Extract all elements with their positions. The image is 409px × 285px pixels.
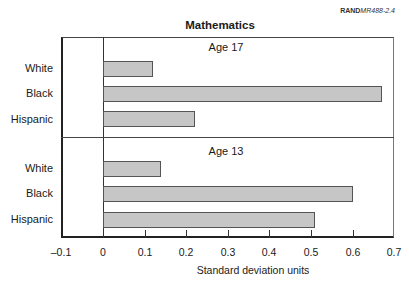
x-tick-label: 0.6 [338,246,368,258]
x-tick [311,230,312,238]
category-label: White [3,62,53,74]
x-tick [269,230,270,238]
category-label: Hispanic [3,213,53,225]
x-axis-label: Standard deviation units [103,264,403,276]
bar-age17-hispanic [103,111,195,127]
panel-label-age17: Age 17 [186,41,266,53]
bar-age17-white [103,61,153,77]
x-tick-label: 0.5 [296,246,326,258]
x-tick [145,230,146,238]
x-tick-label: 0.7 [379,246,409,258]
x-tick [353,230,354,238]
bar-age17-black [103,86,382,102]
x-tick-label: 0 [88,246,118,258]
x-tick [228,230,229,238]
panel-label-age13: Age 13 [186,145,266,157]
bar-age13-hispanic [103,212,315,228]
bar-age13-black [103,186,353,202]
category-label: White [3,162,53,174]
category-label: Black [3,87,53,99]
category-label: Black [3,187,53,199]
x-tick [186,230,187,238]
x-tick-label: 0.4 [254,246,284,258]
x-tick-label: 0.3 [213,246,243,258]
chart-title: Mathematics [0,19,409,31]
panel-divider [61,137,394,138]
bar-age13-white [103,161,161,177]
x-tick-label: 0.1 [130,246,160,258]
category-label: Hispanic [3,113,53,125]
x-tick-label: 0.2 [171,246,201,258]
x-tick-label: –0.1 [46,246,76,258]
source-label: RANDMR488-2.4 [340,7,395,14]
